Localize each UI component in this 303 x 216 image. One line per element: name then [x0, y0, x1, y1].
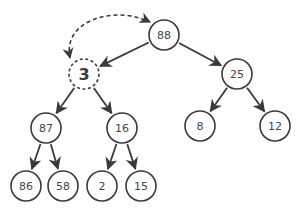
tree-node-8: 8 — [185, 111, 215, 141]
node-label: 2 — [99, 180, 106, 193]
tree-node-12: 12 — [260, 111, 290, 141]
edge-n16-n15 — [127, 144, 135, 169]
node-label: 8 — [197, 120, 204, 133]
node-label: 16 — [115, 122, 129, 135]
nodes: 8832587168128658215 — [11, 20, 290, 201]
tree-node-58: 58 — [48, 171, 78, 201]
edge-n88-n3 — [100, 42, 149, 66]
node-label: 3 — [78, 65, 89, 84]
tree-node-2: 2 — [87, 171, 117, 201]
edge-n25-n8 — [210, 88, 227, 111]
swap-arrow — [69, 15, 150, 58]
edge-n88-n25 — [179, 43, 221, 66]
tree-diagram: 8832587168128658215 — [0, 0, 303, 216]
node-label: 86 — [19, 180, 33, 193]
tree-node-16: 16 — [107, 113, 137, 143]
tree-node-15: 15 — [126, 171, 156, 201]
edge-n25-n12 — [247, 88, 264, 112]
tree-node-87: 87 — [31, 113, 61, 143]
tree-node-88: 88 — [149, 20, 179, 50]
node-label: 87 — [39, 122, 53, 135]
edge-n87-n58 — [51, 144, 58, 168]
node-label: 15 — [134, 180, 148, 193]
tree-node-3: 3 — [69, 59, 99, 89]
tree-node-86: 86 — [11, 171, 41, 201]
edge-n3-n87 — [56, 88, 74, 113]
node-label: 58 — [56, 180, 70, 193]
tree-node-25: 25 — [222, 59, 252, 89]
edge-n87-n86 — [32, 144, 41, 169]
node-label: 12 — [268, 120, 282, 133]
edge-n3-n16 — [94, 88, 112, 113]
edge-n16-n2 — [108, 144, 117, 169]
node-label: 25 — [230, 68, 244, 81]
node-label: 88 — [157, 29, 171, 42]
